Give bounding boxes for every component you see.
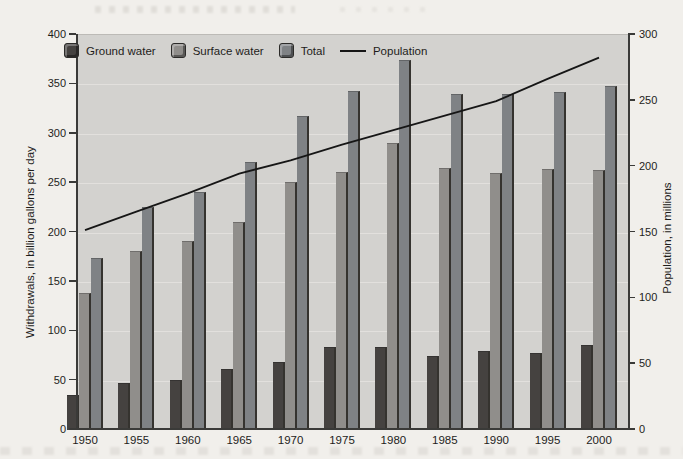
bar-total-1980	[399, 60, 411, 430]
legend-item-surface-water: Surface water	[171, 43, 264, 58]
bar-surface-water-2000	[593, 170, 605, 430]
bar-surface-water-1960	[182, 241, 194, 430]
bar-surface-water-1970	[285, 182, 297, 430]
gridline-350	[77, 84, 628, 85]
right-axis-tick	[628, 428, 635, 430]
right-axis-tick	[628, 362, 635, 364]
bottom-axis-line	[76, 428, 629, 430]
left-axis-tick	[69, 231, 76, 233]
x-axis-tick-label-1980: 1980	[371, 434, 415, 447]
scan-artifact	[95, 6, 295, 13]
legend: Ground waterSurface waterTotalPopulation	[64, 42, 442, 59]
bar-ground-water-1965	[221, 369, 233, 430]
left-axis-tick	[69, 379, 76, 381]
legend-label: Total	[301, 45, 325, 57]
bar-surface-water-1985	[439, 168, 451, 430]
right-axis-tick	[628, 231, 635, 233]
right-axis-tick	[628, 33, 635, 35]
left-axis-title: Withdrawals, in billion gallons per day	[24, 127, 36, 357]
right-axis-tick-label: 0	[639, 423, 675, 435]
right-axis-tick	[628, 297, 635, 299]
left-axis-tick-label: 350	[30, 77, 66, 89]
right-axis-tick	[628, 99, 635, 101]
left-axis-tick	[69, 83, 76, 85]
bar-total-1995	[554, 92, 566, 430]
bar-ground-water-1985	[427, 356, 439, 430]
bar-ground-water-2000	[581, 345, 593, 430]
bar-ground-water-1955	[118, 383, 130, 430]
bar-surface-water-1965	[233, 222, 245, 430]
legend-swatch-surface	[171, 43, 186, 58]
left-axis-line	[76, 34, 78, 430]
bar-total-2000	[605, 86, 617, 430]
right-axis-tick-label: 300	[639, 28, 675, 40]
left-axis-tick	[69, 280, 76, 282]
bar-ground-water-1960	[170, 380, 182, 430]
legend-swatch-ground	[64, 43, 79, 58]
x-axis-tick-label-1950: 1950	[63, 434, 107, 447]
right-axis-tick-label: 50	[639, 357, 675, 369]
bar-ground-water-1975	[324, 347, 336, 430]
x-axis-tick-label-1965: 1965	[217, 434, 261, 447]
bar-ground-water-1980	[375, 347, 387, 430]
right-axis-tick-label: 250	[639, 94, 675, 106]
legend-label: Surface water	[193, 45, 264, 57]
legend-item-ground-water: Ground water	[64, 43, 156, 58]
legend-label: Ground water	[86, 45, 156, 57]
bar-total-1985	[451, 94, 463, 430]
bar-total-1950	[91, 258, 103, 430]
left-axis-tick	[69, 132, 76, 134]
bar-total-1990	[502, 94, 514, 430]
x-axis-tick-label-1990: 1990	[474, 434, 518, 447]
legend-item-population: Population	[340, 45, 427, 57]
bar-ground-water-1970	[273, 362, 285, 430]
left-axis-tick	[69, 181, 76, 183]
left-axis-tick-label: 50	[30, 374, 66, 386]
legend-item-total: Total	[279, 43, 325, 58]
bar-surface-water-1950	[79, 293, 91, 430]
chart-canvas: 0501001502002503003504000501001502002503…	[0, 0, 683, 459]
right-axis-title: Population, in millions	[661, 128, 673, 348]
bar-ground-water-1995	[530, 353, 542, 430]
x-axis-tick-label-1985: 1985	[423, 434, 467, 447]
bar-surface-water-1990	[490, 173, 502, 430]
left-axis-tick-label: 400	[30, 28, 66, 40]
scan-artifact	[340, 7, 430, 12]
bar-ground-water-1990	[478, 351, 490, 430]
x-axis-tick-label-1970: 1970	[269, 434, 313, 447]
x-axis-tick-label-1975: 1975	[320, 434, 364, 447]
bar-surface-water-1975	[336, 172, 348, 430]
legend-swatch-total	[279, 43, 294, 58]
bar-surface-water-1980	[387, 143, 399, 430]
bar-total-1970	[297, 116, 309, 430]
bar-total-1960	[194, 192, 206, 430]
bar-surface-water-1955	[130, 251, 142, 430]
x-axis-tick-label-1995: 1995	[526, 434, 570, 447]
legend-line-sample	[340, 50, 366, 52]
bar-total-1965	[245, 162, 257, 430]
bar-total-1975	[348, 91, 360, 430]
legend-label: Population	[373, 45, 427, 57]
left-axis-tick	[69, 330, 76, 332]
bar-total-1955	[142, 207, 154, 430]
scan-artifact	[0, 447, 683, 455]
x-axis-tick-label-1960: 1960	[166, 434, 210, 447]
left-axis-tick	[69, 428, 76, 430]
x-axis-tick-label-2000: 2000	[577, 434, 621, 447]
right-axis-tick	[628, 165, 635, 167]
x-axis-tick-label-1955: 1955	[114, 434, 158, 447]
left-axis-tick	[69, 33, 76, 35]
bar-surface-water-1995	[542, 169, 554, 430]
left-axis-tick-label: 0	[30, 423, 66, 435]
